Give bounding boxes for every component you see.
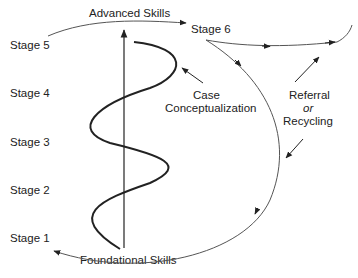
foundational-skills-label: Foundational Skills — [80, 254, 177, 266]
conceptualization-label: Conceptualization — [165, 102, 256, 114]
stage-2-label: Stage 2 — [10, 184, 50, 196]
or-label: or — [303, 102, 314, 114]
stage-6-label: Stage 6 — [191, 23, 231, 35]
developmental-spiral-curve — [90, 42, 176, 249]
referral-tail-curve — [337, 25, 352, 42]
referral-up-arrow — [295, 57, 319, 82]
case-label: Case — [193, 89, 220, 101]
referral-label: Referral — [289, 89, 330, 101]
referral-down-arrow — [286, 139, 303, 158]
stage-3-label: Stage 3 — [10, 136, 50, 148]
stage-diagram: Stage 5 Stage 4 Stage 3 Stage 2 Stage 1 … — [0, 0, 358, 278]
stage-4-label: Stage 4 — [10, 87, 50, 99]
return-arc-arrow — [54, 40, 280, 263]
stage-1-label: Stage 1 — [10, 232, 50, 244]
advanced-skills-arc-arrow — [48, 21, 186, 36]
stage-5-label: Stage 5 — [10, 39, 50, 51]
stage6-to-referral-arrow — [206, 40, 337, 46]
case-pointer-arrow — [182, 68, 203, 83]
advanced-skills-label: Advanced Skills — [89, 7, 170, 19]
recycling-label: Recycling — [283, 115, 333, 127]
